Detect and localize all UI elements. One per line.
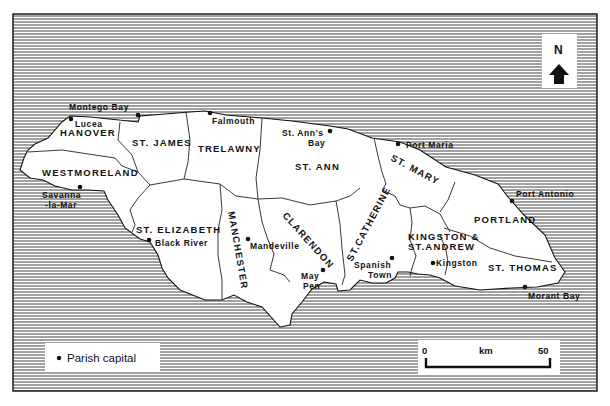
capital-dot-savanna-la-mar — [78, 185, 83, 190]
capital-label-may-pen: May — [301, 271, 319, 281]
capital-label-port-antonio: Port Antonio — [516, 189, 574, 199]
legend: Parish capital — [45, 343, 160, 371]
parish-label-portland: PORTLAND — [474, 214, 536, 225]
parish-label-st-ann: ST. ANN — [295, 161, 340, 172]
north-label: N — [554, 43, 563, 57]
capital-dot-falmouth — [208, 111, 213, 116]
capital-dot-port-antonio — [510, 199, 515, 204]
capital-label-black-river: Black River — [155, 238, 208, 248]
parish-label-st-elizabeth: ST. ELIZABETH — [136, 224, 221, 235]
scale-bar: 0 km 50 — [418, 340, 560, 374]
scale-unit-label: km — [479, 345, 493, 356]
capital-label-lucea: Lucea — [75, 119, 103, 129]
capital-dot-st-anns-bay — [328, 129, 333, 134]
capital-label-spanish-town-line2: Town — [368, 270, 392, 280]
capital-label-st-anns-bay-line2: Bay — [308, 138, 325, 148]
capital-dot-kingston — [431, 261, 436, 266]
capital-label-montego-bay: Montego Bay — [69, 102, 129, 112]
parish-label-st-andrew: ST.ANDREW — [408, 241, 475, 252]
legend-label: Parish capital — [67, 352, 136, 364]
capital-label-morant-bay: Morant Bay — [528, 291, 580, 301]
capital-dot-black-river — [147, 238, 152, 243]
scale-end-label: 50 — [538, 345, 549, 356]
capital-dot-may-pen — [321, 268, 326, 273]
capital-label-port-maria: Port Maria — [406, 140, 454, 150]
capital-label-mandeville: Mandeville — [250, 241, 299, 251]
capital-dot-port-maria — [396, 142, 401, 147]
capital-dot-morant-bay — [523, 285, 528, 290]
capital-label-falmouth: Falmouth — [212, 116, 255, 126]
parish-label-westmoreland: WESTMORELAND — [42, 167, 139, 178]
capital-label-may-pen-line2: Pen — [303, 281, 320, 291]
capital-label-st-anns-bay: St. Ann's — [282, 128, 324, 138]
legend-dot-icon — [57, 356, 61, 360]
jamaica-parish-map: HANOVER WESTMORELAND ST. JAMES TRELAWNY … — [0, 0, 610, 406]
parish-label-st-james: ST. JAMES — [132, 137, 192, 148]
parish-label-trelawny: TRELAWNY — [198, 143, 261, 154]
capital-dot-lucea — [69, 117, 74, 122]
capital-label-kingston: Kingston — [436, 258, 478, 268]
capital-dot-montego-bay — [136, 113, 141, 118]
capital-label-savanna-la-mar-line2: -la-Mar — [45, 200, 77, 210]
scale-start-label: 0 — [422, 345, 427, 356]
capital-label-savanna-la-mar: Savanna — [42, 190, 81, 200]
parish-label-st-thomas: ST. THOMAS — [488, 262, 558, 273]
north-arrow: N — [542, 34, 577, 88]
capital-label-spanish-town: Spanish — [354, 260, 391, 270]
